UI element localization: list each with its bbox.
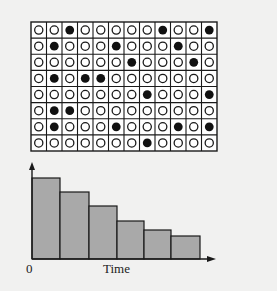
filled-cell-icon <box>174 122 183 131</box>
filled-cell-icon <box>143 90 152 99</box>
empty-cell-icon <box>112 26 120 34</box>
empty-cell-icon <box>35 139 43 147</box>
empty-cell-icon <box>159 74 167 82</box>
filled-cell-icon <box>50 42 59 51</box>
empty-cell-icon <box>159 139 167 147</box>
bar-6 <box>171 236 200 259</box>
empty-cell-icon <box>128 26 136 34</box>
empty-cell-icon <box>112 139 120 147</box>
diagram <box>0 0 277 291</box>
empty-cell-icon <box>112 90 120 98</box>
empty-cell-icon <box>174 74 182 82</box>
empty-cell-icon <box>174 58 182 66</box>
empty-cell-icon <box>81 123 89 131</box>
empty-cell-icon <box>128 74 136 82</box>
empty-cell-icon <box>128 42 136 50</box>
empty-cell-icon <box>35 123 43 131</box>
empty-cell-icon <box>174 26 182 34</box>
empty-cell-icon <box>159 123 167 131</box>
empty-cell-icon <box>97 107 105 115</box>
empty-cell-icon <box>97 90 105 98</box>
empty-cell-icon <box>50 139 58 147</box>
chart-bars <box>32 178 200 259</box>
empty-cell-icon <box>81 139 89 147</box>
empty-cell-icon <box>112 58 120 66</box>
empty-cell-icon <box>35 107 43 115</box>
empty-cell-icon <box>66 74 74 82</box>
filled-cell-icon <box>158 26 167 35</box>
empty-cell-icon <box>159 42 167 50</box>
filled-cell-icon <box>127 58 136 67</box>
bar-1 <box>32 178 60 259</box>
empty-cell-icon <box>205 74 213 82</box>
empty-cell-icon <box>81 58 89 66</box>
empty-cell-icon <box>190 107 198 115</box>
empty-cell-icon <box>190 74 198 82</box>
empty-cell-icon <box>143 123 151 131</box>
empty-cell-icon <box>81 90 89 98</box>
y-axis-arrow-icon <box>29 162 35 170</box>
empty-cell-icon <box>81 26 89 34</box>
empty-cell-icon <box>97 58 105 66</box>
empty-cell-icon <box>159 58 167 66</box>
filled-cell-icon <box>50 122 59 131</box>
empty-cell-icon <box>143 26 151 34</box>
filled-cell-icon <box>174 42 183 51</box>
empty-cell-icon <box>35 58 43 66</box>
empty-cell-icon <box>128 123 136 131</box>
empty-cell-icon <box>205 107 213 115</box>
empty-cell-icon <box>190 123 198 131</box>
empty-cell-icon <box>159 107 167 115</box>
empty-cell-icon <box>143 58 151 66</box>
empty-cell-icon <box>190 26 198 34</box>
empty-cell-icon <box>143 74 151 82</box>
empty-cell-icon <box>97 139 105 147</box>
filled-cell-icon <box>112 42 121 51</box>
empty-cell-icon <box>190 42 198 50</box>
empty-cell-icon <box>112 74 120 82</box>
empty-cell-icon <box>143 42 151 50</box>
empty-cell-icon <box>205 58 213 66</box>
filled-cell-icon <box>65 26 74 35</box>
empty-cell-icon <box>81 107 89 115</box>
empty-cell-icon <box>35 74 43 82</box>
empty-cell-icon <box>97 123 105 131</box>
empty-cell-icon <box>159 90 167 98</box>
empty-cell-icon <box>128 107 136 115</box>
empty-cell-icon <box>205 42 213 50</box>
filled-cell-icon <box>205 90 214 99</box>
filled-cell-icon <box>205 26 214 35</box>
x-axis-arrow-icon <box>207 256 216 262</box>
empty-cell-icon <box>50 26 58 34</box>
filled-cell-icon <box>112 122 121 131</box>
filled-cell-icon <box>65 106 74 115</box>
empty-cell-icon <box>190 139 198 147</box>
empty-cell-icon <box>35 90 43 98</box>
empty-cell-icon <box>66 123 74 131</box>
bar-3 <box>89 206 117 259</box>
x-origin-label: 0 <box>26 262 33 275</box>
decay-bar-chart <box>29 162 216 262</box>
empty-cell-icon <box>190 90 198 98</box>
filled-cell-icon <box>96 74 105 83</box>
empty-cell-icon <box>66 90 74 98</box>
empty-cell-icon <box>66 139 74 147</box>
empty-cell-icon <box>35 26 43 34</box>
filled-cell-icon <box>143 139 152 148</box>
bar-2 <box>60 192 89 259</box>
empty-cell-icon <box>35 42 43 50</box>
bar-5 <box>144 230 171 259</box>
x-axis-label: Time <box>103 262 130 275</box>
empty-cell-icon <box>174 139 182 147</box>
empty-cell-icon <box>81 42 89 50</box>
empty-cell-icon <box>50 58 58 66</box>
empty-cell-icon <box>205 139 213 147</box>
empty-cell-icon <box>174 107 182 115</box>
filled-cell-icon <box>189 58 198 67</box>
empty-cell-icon <box>128 90 136 98</box>
empty-cell-icon <box>128 139 136 147</box>
empty-cell-icon <box>174 90 182 98</box>
filled-cell-icon <box>50 74 59 83</box>
empty-cell-icon <box>97 26 105 34</box>
bar-4 <box>117 221 144 259</box>
